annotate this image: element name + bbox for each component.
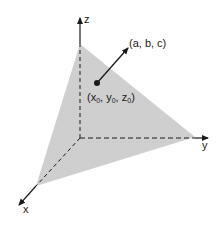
plane-triangle: [36, 44, 195, 186]
point-marker: [94, 80, 100, 86]
y-axis-label: y: [202, 139, 208, 151]
normal-vector-label: (a, b, c): [129, 37, 166, 49]
x-axis-label: x: [23, 203, 29, 215]
diagram-canvas: z y x (a, b, c) (x0, y0, z0): [0, 0, 220, 230]
z-axis-label: z: [84, 13, 90, 25]
